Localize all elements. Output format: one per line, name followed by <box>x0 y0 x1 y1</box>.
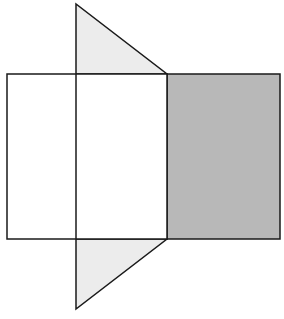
left-rectangle-face <box>7 74 167 239</box>
shaded-rectangle-face <box>167 74 280 239</box>
prism-net-diagram <box>0 0 284 319</box>
top-triangle-face <box>76 4 167 74</box>
bottom-triangle-face <box>76 239 167 309</box>
